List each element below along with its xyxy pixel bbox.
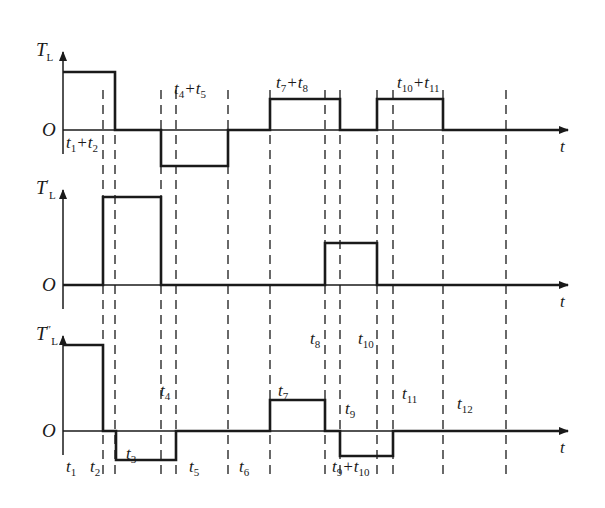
waveform-TL_prime bbox=[63, 197, 568, 285]
waveform-TL bbox=[63, 72, 568, 166]
interval-label-12: t12 bbox=[457, 395, 473, 415]
interval-label-5: t5 bbox=[189, 458, 199, 478]
interval-label-top-2: t4+t5 bbox=[174, 80, 206, 100]
time-axis-label-TL_prime: t bbox=[560, 293, 565, 310]
time-axis-label-TL_double_prime: t bbox=[560, 439, 565, 456]
waveform-TL_double_prime bbox=[63, 345, 568, 460]
interval-label-6: t6 bbox=[239, 458, 249, 478]
time-axis-label-TL: t bbox=[560, 138, 565, 155]
axis-label-TL: TL bbox=[36, 40, 53, 63]
interval-label-1: t1 bbox=[66, 458, 76, 478]
interval-label-top-4: t10+t11 bbox=[397, 74, 440, 94]
axes bbox=[63, 52, 568, 455]
axis-label-TL_prime: T′L bbox=[36, 178, 56, 201]
interval-label-13: t9+t10 bbox=[332, 458, 369, 478]
interval-label-2: t2 bbox=[90, 458, 100, 478]
origin-label-TL_double_prime: O bbox=[42, 421, 56, 440]
interval-label-top-1: t1+t2 bbox=[66, 134, 98, 154]
interval-label-4: t4 bbox=[160, 382, 170, 402]
interval-label-11: t11 bbox=[402, 385, 417, 405]
interval-label-9: t9 bbox=[345, 400, 355, 420]
origin-label-TL_prime: O bbox=[42, 275, 56, 294]
origin-label-TL: O bbox=[42, 120, 56, 139]
interval-label-7: t7 bbox=[278, 382, 288, 402]
interval-label-top-3: t7+t8 bbox=[276, 74, 308, 94]
interval-label-3: t3 bbox=[126, 445, 136, 465]
axis-label-TL_double_prime: T″L bbox=[36, 324, 58, 347]
interval-label-8: t8 bbox=[310, 330, 320, 350]
interval-label-10: t10 bbox=[358, 330, 374, 350]
